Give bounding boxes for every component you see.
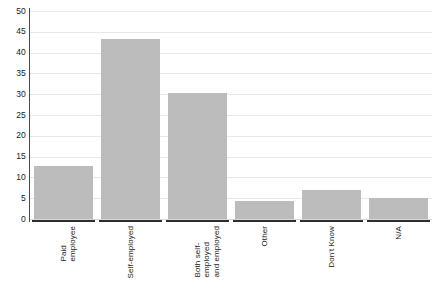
x-axis-segment <box>233 220 296 222</box>
gridline <box>30 53 432 54</box>
y-axis-tick-label: 50 <box>2 7 26 16</box>
y-axis-tick-label: 25 <box>2 111 26 120</box>
gridline <box>30 115 432 116</box>
bar-chart: 05101520253035404550 Paid employeeSelf-e… <box>0 0 432 291</box>
y-axis-tick-label: 30 <box>2 90 26 99</box>
gridline <box>30 73 432 74</box>
y-axis-tick-label: 5 <box>2 194 26 203</box>
x-axis-category-label: Self-employed <box>126 226 135 278</box>
x-axis-category-label: Other <box>260 226 269 247</box>
x-axis-segment <box>99 220 162 222</box>
x-axis-segment <box>300 220 363 222</box>
gridline <box>30 32 432 33</box>
y-axis-tick-label: 45 <box>2 27 26 36</box>
bar <box>101 39 160 219</box>
y-axis-tick-labels: 05101520253035404550 <box>0 11 26 219</box>
y-axis-tick-label: 15 <box>2 152 26 161</box>
x-axis-category-label: Paid employee <box>59 226 78 262</box>
gridline <box>30 157 432 158</box>
gridline <box>30 136 432 137</box>
y-axis-tick-label: 0 <box>2 215 26 224</box>
x-axis-segment <box>166 220 229 222</box>
y-axis-tick-label: 40 <box>2 48 26 57</box>
bar <box>302 190 361 219</box>
x-axis-segment <box>367 220 430 222</box>
y-axis-tick-label: 10 <box>2 173 26 182</box>
y-axis-tick-label: 20 <box>2 131 26 140</box>
x-axis-category-label: Both self- employed and employed <box>193 226 221 277</box>
bar <box>235 201 294 219</box>
bar <box>369 198 428 219</box>
bar <box>34 166 93 219</box>
gridline <box>30 11 432 12</box>
x-axis-segment <box>32 220 95 222</box>
x-axis-category-label: N/A <box>394 226 403 240</box>
x-axis-category-label: Don't Know <box>327 226 336 268</box>
gridline <box>30 94 432 95</box>
plot-area <box>30 11 432 219</box>
y-axis-tick-label: 35 <box>2 69 26 78</box>
bar <box>168 93 227 219</box>
